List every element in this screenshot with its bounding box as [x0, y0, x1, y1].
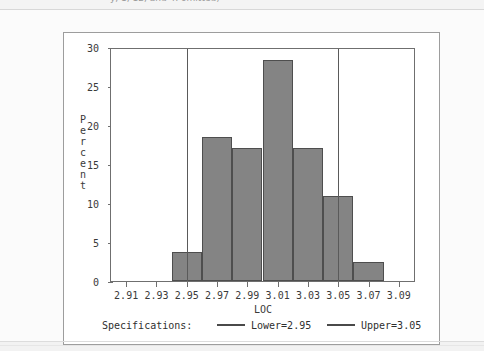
- y-tick-label: 0: [93, 277, 99, 288]
- chart-legend: Specifications: Lower=2.95 Upper=3.05: [72, 320, 428, 336]
- x-tick-mark: [369, 282, 370, 287]
- screenshot-root: y, 1, 12, and 4: omitted) 051015202530 P…: [0, 0, 484, 351]
- x-tick-label: 2.95: [175, 290, 199, 301]
- x-tick-mark: [399, 282, 400, 287]
- y-tick-label: 10: [87, 199, 99, 210]
- x-axis-title: LOC: [110, 304, 416, 315]
- clipped-caption-text: y, 1, 12, and 4: omitted): [110, 0, 220, 3]
- x-tick-label: 2.91: [114, 290, 138, 301]
- x-tick-mark: [217, 282, 218, 287]
- y-axis-title-char: P: [78, 114, 88, 125]
- y-tick-label: 25: [87, 82, 99, 93]
- y-axis-title: Percent: [78, 114, 88, 191]
- y-tick-label: 15: [87, 160, 99, 171]
- y-axis-title-char: t: [78, 180, 88, 191]
- x-axis: LOC 2.912.932.952.972.993.013.033.053.07…: [110, 282, 416, 322]
- x-tick-label: 3.09: [387, 290, 411, 301]
- x-tick-label: 2.93: [144, 290, 168, 301]
- y-axis-title-char: r: [78, 136, 88, 147]
- legend-entry-lower: Lower=2.95: [217, 320, 311, 331]
- x-tick-mark: [247, 282, 248, 287]
- plot-area: [110, 48, 415, 282]
- y-tick-label: 5: [93, 238, 99, 249]
- legend-label-upper: Upper=3.05: [361, 320, 421, 331]
- plot-inner: [111, 49, 414, 281]
- x-tick-label: 3.01: [266, 290, 290, 301]
- x-tick-mark: [338, 282, 339, 287]
- document-page: 051015202530 Percent LOC 2.912.932.952.9…: [0, 10, 484, 341]
- clipped-caption-strip: y, 1, 12, and 4: omitted): [0, 0, 484, 9]
- x-tick-label: 2.97: [205, 290, 229, 301]
- legend-title: Specifications:: [102, 320, 192, 331]
- bottom-divider: [0, 341, 484, 342]
- x-tick-mark: [308, 282, 309, 287]
- legend-line-icon-lower: [217, 324, 245, 326]
- spec-limit-line-upper: [338, 49, 339, 281]
- x-tick-mark: [187, 282, 188, 287]
- x-tick-label: 3.07: [357, 290, 381, 301]
- histogram-bar: [293, 148, 323, 281]
- y-axis: 051015202530: [63, 32, 113, 292]
- y-axis-title-char: c: [78, 147, 88, 158]
- histogram-bar: [232, 148, 262, 281]
- x-tick-mark: [278, 282, 279, 287]
- y-axis-title-char: n: [78, 169, 88, 180]
- x-tick-mark: [156, 282, 157, 287]
- bottom-divider-2: [0, 345, 484, 346]
- x-tick-label: 3.03: [296, 290, 320, 301]
- y-tick-label: 20: [87, 121, 99, 132]
- histogram-bar: [353, 262, 383, 281]
- spec-limit-line-lower: [187, 49, 188, 281]
- histogram-bar: [202, 137, 232, 281]
- legend-label-lower: Lower=2.95: [251, 320, 311, 331]
- y-tick-label: 30: [87, 43, 99, 54]
- histogram-bar: [263, 60, 293, 281]
- x-tick-label: 3.05: [326, 290, 350, 301]
- legend-line-icon-upper: [327, 324, 355, 326]
- x-tick-mark: [126, 282, 127, 287]
- x-tick-label: 2.99: [235, 290, 259, 301]
- y-axis-title-char: e: [78, 125, 88, 136]
- legend-entry-upper: Upper=3.05: [327, 320, 421, 331]
- y-axis-title-char: e: [78, 158, 88, 169]
